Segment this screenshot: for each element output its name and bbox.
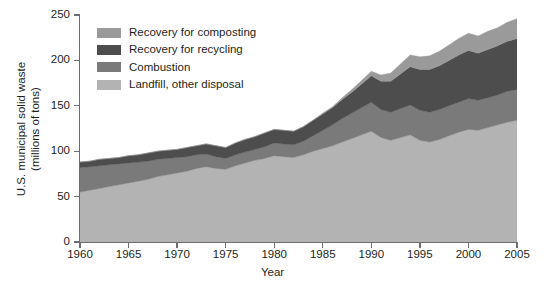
legend-item: Recovery for recycling: [97, 41, 256, 58]
x-tick-label: 1990: [349, 249, 393, 261]
y-tick-mark: [74, 105, 79, 106]
y-tick-mark: [74, 196, 79, 197]
legend-item: Landfill, other disposal: [97, 76, 256, 93]
chart-figure: 050100150200250 196019651970197519801985…: [0, 0, 545, 290]
legend-item: Combustion: [97, 59, 256, 76]
legend-swatch: [97, 80, 121, 90]
y-tick-mark: [74, 14, 79, 15]
legend-swatch: [97, 62, 121, 72]
legend-label: Landfill, other disposal: [129, 79, 243, 91]
x-tick-label: 1970: [155, 249, 199, 261]
x-tick-label: 1980: [252, 249, 296, 261]
legend-label: Recovery for recycling: [129, 44, 243, 56]
y-tick-mark: [74, 241, 79, 242]
x-tick-label: 1975: [204, 249, 248, 261]
y-tick-mark: [74, 60, 79, 61]
x-tick-label: 1965: [107, 249, 151, 261]
legend-label: Recovery for composting: [129, 27, 256, 39]
y-tick-label: 250: [0, 9, 70, 21]
legend-swatch: [97, 45, 121, 55]
y-tick-mark: [74, 151, 79, 152]
x-tick-label: 1985: [301, 249, 345, 261]
y-axis-title-line2: (millions of tons): [28, 24, 42, 234]
x-tick-label: 1995: [398, 249, 442, 261]
y-tick-label: 0: [0, 236, 70, 248]
legend-item: Recovery for composting: [97, 24, 256, 41]
x-tick-label: 2000: [446, 249, 490, 261]
x-axis-title: Year: [0, 266, 545, 278]
x-tick-label: 1960: [58, 249, 102, 261]
legend-label: Combustion: [129, 62, 190, 74]
x-tick-label: 2005: [495, 249, 539, 261]
y-axis-title-line1: U.S. municipal solid waste: [14, 24, 28, 234]
y-axis-line: [79, 14, 80, 243]
chart-legend: Recovery for compostingRecovery for recy…: [97, 24, 256, 94]
legend-swatch: [97, 28, 121, 38]
y-axis-title: U.S. municipal solid waste (millions of …: [14, 24, 42, 234]
x-axis-line: [79, 242, 518, 243]
